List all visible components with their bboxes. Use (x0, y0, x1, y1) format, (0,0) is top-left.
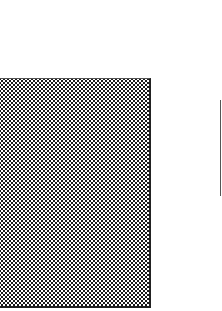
halftone-panel (0, 78, 151, 308)
edge-line (220, 100, 221, 196)
